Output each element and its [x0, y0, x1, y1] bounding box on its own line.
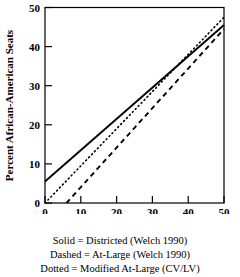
y-tick-label-0: 0 — [35, 197, 41, 209]
y-tick-label-50: 50 — [29, 2, 41, 14]
y-tick-label-10: 10 — [29, 158, 41, 170]
x-tick-label-0: 0 — [42, 206, 48, 214]
plot-frame-rect — [45, 8, 224, 204]
caption-line-dotted: Dotted = Modified At-Large (CV/LV) — [0, 262, 240, 276]
line-dashed — [66, 29, 224, 203]
chart-svg: 0 10 20 30 40 50 0 10 20 30 40 50 — [0, 0, 240, 214]
caption-line-solid: Solid = Districted (Welch 1990) — [0, 234, 240, 248]
y-axis-ticks — [45, 8, 52, 204]
axis-frame — [45, 8, 224, 204]
figure: 0 10 20 30 40 50 0 10 20 30 40 50 — [0, 0, 240, 277]
x-tick-label-40: 40 — [183, 206, 195, 214]
y-tick-label-20: 20 — [29, 119, 41, 131]
chart-caption: Solid = Districted (Welch 1990) Dashed =… — [0, 234, 240, 276]
y-tick-labels: 0 10 20 30 40 50 — [29, 2, 41, 210]
x-tick-label-30: 30 — [147, 206, 159, 214]
series-dotted-modified-at-large — [45, 17, 224, 203]
line-solid — [45, 25, 224, 181]
x-tick-label-20: 20 — [111, 206, 123, 214]
x-tick-label-10: 10 — [75, 206, 87, 214]
series-solid-districted — [45, 25, 224, 181]
line-dotted — [45, 17, 224, 203]
x-tick-labels: 0 10 20 30 40 50 — [42, 206, 230, 214]
chart-plot-area: 0 10 20 30 40 50 0 10 20 30 40 50 — [0, 0, 240, 214]
y-axis-title: Percent African-American Seats — [3, 29, 15, 181]
y-tick-label-40: 40 — [29, 41, 41, 53]
y-tick-label-30: 30 — [29, 80, 41, 92]
caption-line-dashed: Dashed = At-Large (Welch 1990) — [0, 248, 240, 262]
series-dashed-at-large — [66, 29, 224, 203]
x-tick-label-50: 50 — [219, 206, 231, 214]
x-axis-ticks — [45, 196, 224, 203]
